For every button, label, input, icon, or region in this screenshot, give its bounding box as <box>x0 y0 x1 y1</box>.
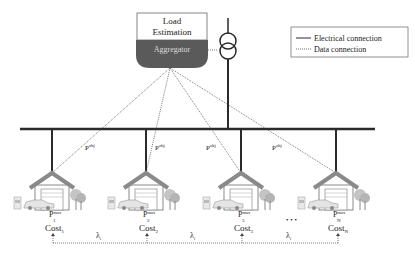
legend-data-label: Data connection <box>314 45 366 54</box>
legend-electrical-label: Electrical connection <box>314 34 382 43</box>
load-estimation-line1: Load <box>163 16 182 26</box>
ellipsis: • • • <box>286 216 297 224</box>
lambda-label-1: λi <box>96 231 102 241</box>
cost-label-n: CostN <box>328 223 349 234</box>
legend: Electrical connection Data connection <box>291 27 408 57</box>
lambda-label-2: λi <box>190 231 196 241</box>
p-obj-label-2: Pobj <box>155 143 165 152</box>
p-obj-label-4: Pobj <box>272 143 282 152</box>
household-3 <box>203 173 275 210</box>
electrical-drops <box>52 129 336 173</box>
household-2 <box>108 173 180 210</box>
data-links <box>52 68 336 173</box>
household-1 <box>14 173 86 210</box>
p-max-labels: Pmax 1 Pmax 2 Pmax 3 Pmax N <box>49 210 346 223</box>
load-estimation-line2: Estimation <box>153 27 192 37</box>
load-estimation-box: Load Estimation <box>137 13 207 40</box>
lambda-label-3: λi <box>286 231 292 241</box>
lambda-labels: λi λi λi <box>96 231 292 241</box>
cost-label-1: Cost1 <box>45 223 65 234</box>
diagram-canvas: Load Estimation Aggregator Electrical co… <box>0 0 415 256</box>
transformer-icon <box>220 18 236 128</box>
cost-labels: Cost1 Cost2 Cost3 CostN <box>45 223 349 234</box>
cost-label-2: Cost2 <box>139 223 159 234</box>
p-obj-label-3: Pobj <box>206 143 216 152</box>
aggregator-label: Aggregator <box>154 45 191 54</box>
household-n <box>298 173 370 210</box>
p-obj-label-1: Pobj <box>85 143 95 152</box>
aggregator-node: Aggregator <box>136 40 208 68</box>
p-obj-labels: Pobj Pobj Pobj Pobj <box>85 143 282 152</box>
arrow-heads <box>51 233 340 236</box>
cost-label-3: Cost3 <box>234 223 254 234</box>
